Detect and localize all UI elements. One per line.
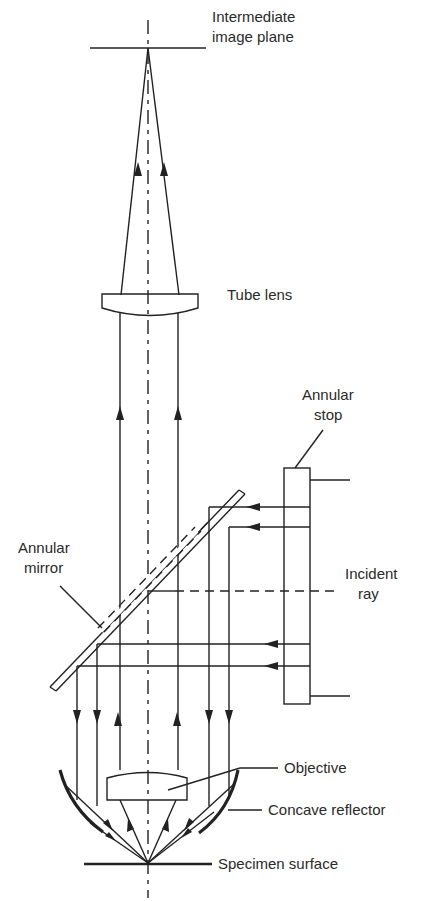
image-ray-left: [121, 48, 148, 295]
concave-reflector-label: Concave reflector: [268, 801, 386, 818]
mirror-clear-zone-2: [104, 531, 201, 632]
arrow-up-icon: [174, 406, 182, 420]
incident-ray-label-2: ray: [358, 585, 379, 602]
mirror-clear-zone-1: [98, 527, 195, 628]
arrow-down-icon: [205, 710, 213, 724]
arrow-left-icon: [246, 503, 260, 511]
tube-lens-label: Tube lens: [227, 286, 292, 303]
arrow-down-icon: [93, 710, 101, 724]
arrow-left-icon: [264, 640, 278, 648]
arrow-down-icon: [103, 819, 113, 831]
incident-ray-label-1: Incident: [345, 565, 398, 582]
annular-mirror-label-1: Annular: [18, 539, 70, 556]
annular-stop-label-1: Annular: [302, 386, 354, 403]
annular-stop: [284, 468, 310, 704]
scattered-ray-right: [148, 800, 176, 863]
annular-stop-label-2: stop: [314, 406, 342, 423]
annular-stop-leader: [295, 430, 323, 468]
objective-label: Objective: [284, 759, 347, 776]
objective-lens: [107, 773, 187, 801]
mirror-clear-gap: [101, 531, 197, 631]
arrow-up-icon: [116, 406, 124, 420]
arrow-down-icon: [225, 710, 233, 724]
arrow-left-icon: [264, 662, 278, 670]
arrow-up-icon: [114, 712, 122, 726]
arrow-down-icon: [105, 832, 116, 841]
arrow-up-icon: [173, 712, 181, 726]
intermediate-image-plane-label-2: image plane: [212, 28, 294, 45]
intermediate-image-plane-label-1: Intermediate: [212, 8, 295, 25]
specimen-surface-label: Specimen surface: [218, 855, 338, 872]
darkfield-optical-diagram: Intermediate image plane Tube lens Annul…: [0, 0, 435, 901]
reflected-ray-r2: [148, 812, 214, 863]
annular-mirror-leader: [60, 586, 102, 628]
arrow-up-icon: [160, 162, 168, 176]
arrow-down-icon: [73, 710, 81, 724]
annular-mirror-label-2: mirror: [24, 559, 63, 576]
arrow-left-icon: [246, 523, 260, 531]
tube-lens: [102, 294, 198, 316]
